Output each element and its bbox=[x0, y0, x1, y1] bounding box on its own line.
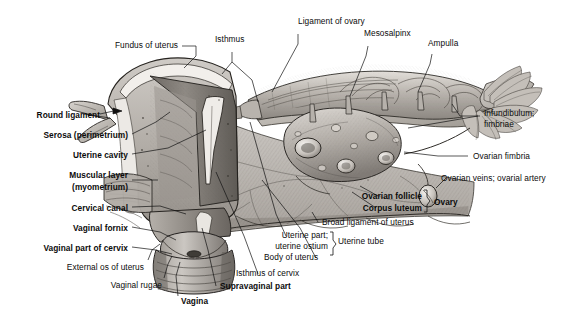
label-uterine-part-line1: Uterine part; bbox=[240, 230, 328, 241]
label-vagina: Vagina bbox=[181, 296, 208, 307]
label-corpus-luteum: Corpus luteum bbox=[318, 203, 422, 214]
label-ovarian-fimbria: Ovarian fimbria bbox=[473, 151, 530, 162]
label-ovarian-veins-artery: Ovarian veins; ovarial artery bbox=[441, 173, 546, 184]
label-broad-ligament-of-uterus: Broad ligament of uterus bbox=[322, 217, 414, 228]
label-mesosalpinx: Mesosalpinx bbox=[364, 28, 411, 39]
label-vaginal-fornix: Vaginal fornix bbox=[0, 223, 128, 234]
label-fundus-of-uterus: Fundus of uterus bbox=[115, 40, 178, 51]
label-cervical-canal: Cervical canal bbox=[0, 203, 128, 214]
label-external-os-of-uterus: External os of uterus bbox=[22, 262, 144, 273]
label-round-ligament: Round ligament bbox=[0, 110, 100, 121]
anatomical-figure: Fundus of uterus Isthmus Ligament of ova… bbox=[0, 0, 568, 321]
label-ampulla: Ampulla bbox=[428, 38, 458, 49]
label-vaginal-part-of-cervix: Vaginal part of cervix bbox=[0, 243, 128, 254]
label-ovary: Ovary bbox=[434, 197, 458, 208]
label-infundibulum-line1: Infundibulum; bbox=[484, 108, 534, 119]
label-uterine-part-line2: uterine ostium bbox=[240, 241, 328, 252]
label-isthmus: Isthmus bbox=[215, 34, 244, 45]
label-ovarian-follicle: Ovarian follicle bbox=[318, 191, 422, 202]
label-uterine-cavity: Uterine cavity bbox=[0, 150, 128, 161]
label-body-of-uterus: Body of uterus bbox=[264, 252, 318, 263]
label-isthmus-of-cervix: Isthmus of cervix bbox=[236, 268, 299, 279]
label-ligament-of-ovary: Ligament of ovary bbox=[298, 16, 365, 27]
label-uterine-tube: Uterine tube bbox=[338, 236, 384, 247]
uterus-body-shape bbox=[104, 58, 250, 226]
label-infundibulum-line2: fimbriae bbox=[484, 119, 514, 130]
label-serosa-perimetrium: Serosa (perimetrium) bbox=[0, 130, 128, 141]
label-muscular-layer-line1: Muscular layer bbox=[0, 170, 128, 181]
label-muscular-layer-line2: (myometrium) bbox=[0, 182, 128, 193]
label-supravaginal-part: Supravaginal part bbox=[220, 281, 291, 292]
label-vaginal-rugae: Vaginal rugae bbox=[60, 280, 162, 291]
